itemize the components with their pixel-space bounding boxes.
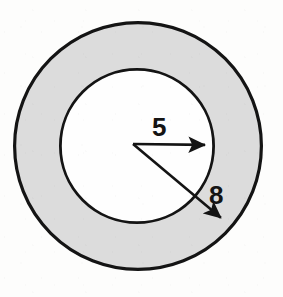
outer-radius-label: 8 bbox=[209, 182, 223, 208]
annulus-figure: 5 8 bbox=[0, 0, 283, 297]
annulus-diagram-svg bbox=[0, 0, 283, 297]
inner-radius-label: 5 bbox=[152, 114, 166, 140]
inner-radius-arrow bbox=[133, 144, 205, 145]
